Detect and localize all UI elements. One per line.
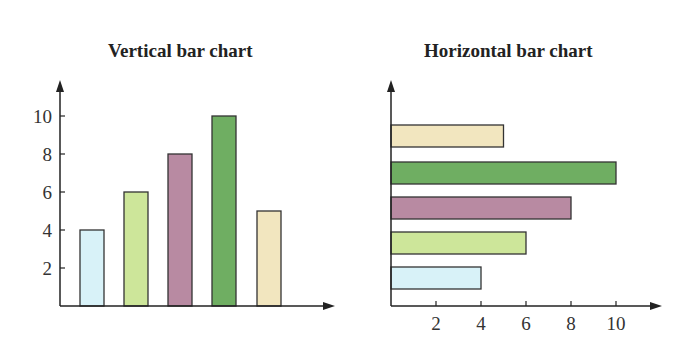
bar: [257, 211, 281, 306]
vertical-bar-chart: 246810: [33, 80, 335, 310]
bar: [168, 154, 192, 306]
x-tick-label: 4: [476, 313, 486, 334]
bar: [124, 192, 148, 306]
y-tick-label: 8: [43, 144, 53, 165]
bar: [212, 116, 236, 306]
x-tick-label: 6: [521, 313, 531, 334]
bar: [391, 267, 481, 289]
horizontal-bar-chart: 246810: [387, 80, 662, 334]
y-tick-label: 4: [43, 220, 53, 241]
horizontal-bars: [391, 125, 616, 289]
y-tick-label: 10: [33, 106, 52, 127]
charts-canvas: 246810 246810: [0, 0, 693, 352]
y-tick-label: 6: [43, 182, 53, 203]
x-axis-arrow-icon: [323, 302, 335, 310]
bar: [80, 230, 104, 306]
bar: [391, 197, 571, 219]
x-tick-label: 2: [431, 313, 441, 334]
y-axis-arrow-icon: [387, 80, 395, 92]
y-tick-label: 2: [43, 258, 53, 279]
bar: [391, 232, 526, 254]
vertical-bars: [80, 116, 281, 306]
bar: [391, 125, 504, 147]
x-tick-label: 8: [566, 313, 576, 334]
bar: [391, 162, 616, 184]
x-axis-arrow-icon: [650, 302, 662, 310]
x-tick-label: 10: [607, 313, 626, 334]
y-axis-arrow-icon: [56, 80, 64, 92]
